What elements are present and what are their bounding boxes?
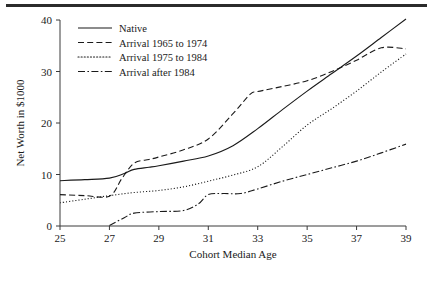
line-chart: 2527293133353739 010203040 Cohort Median… <box>0 0 429 282</box>
x-axis-tick-labels: 2527293133353739 <box>55 232 413 244</box>
y-tick-label: 30 <box>41 66 53 78</box>
x-axis-tick-marks <box>60 226 406 230</box>
legend-label-0: Native <box>119 23 147 34</box>
data-series-group <box>60 19 406 226</box>
x-tick-label: 33 <box>252 232 264 244</box>
legend-label-3: Arrival after 1984 <box>119 67 196 78</box>
x-tick-label: 35 <box>302 232 314 244</box>
x-tick-label: 31 <box>203 232 214 244</box>
legend-label-1: Arrival 1965 to 1974 <box>119 38 208 49</box>
figure-container: 2527293133353739 010203040 Cohort Median… <box>0 0 429 282</box>
x-tick-label: 29 <box>153 232 165 244</box>
x-tick-label: 25 <box>55 232 67 244</box>
y-tick-label: 10 <box>41 169 53 181</box>
series-line-2 <box>60 54 406 203</box>
y-tick-label: 20 <box>41 117 53 129</box>
series-line-0 <box>60 19 406 181</box>
y-axis-tick-labels: 010203040 <box>41 14 53 232</box>
series-line-3 <box>109 144 406 225</box>
x-tick-label: 37 <box>351 232 363 244</box>
series-line-1 <box>60 47 406 197</box>
x-tick-label: 39 <box>401 232 413 244</box>
x-axis-title: Cohort Median Age <box>189 248 276 260</box>
chart-legend: NativeArrival 1965 to 1974Arrival 1975 t… <box>78 23 208 78</box>
axes-group <box>56 20 406 230</box>
x-tick-label: 27 <box>104 232 116 244</box>
y-axis-tick-marks <box>56 20 60 226</box>
y-tick-label: 40 <box>41 14 53 26</box>
y-tick-label: 0 <box>47 220 53 232</box>
legend-label-2: Arrival 1975 to 1984 <box>119 52 208 63</box>
y-axis-title: Net Worth in $1000 <box>14 79 26 167</box>
